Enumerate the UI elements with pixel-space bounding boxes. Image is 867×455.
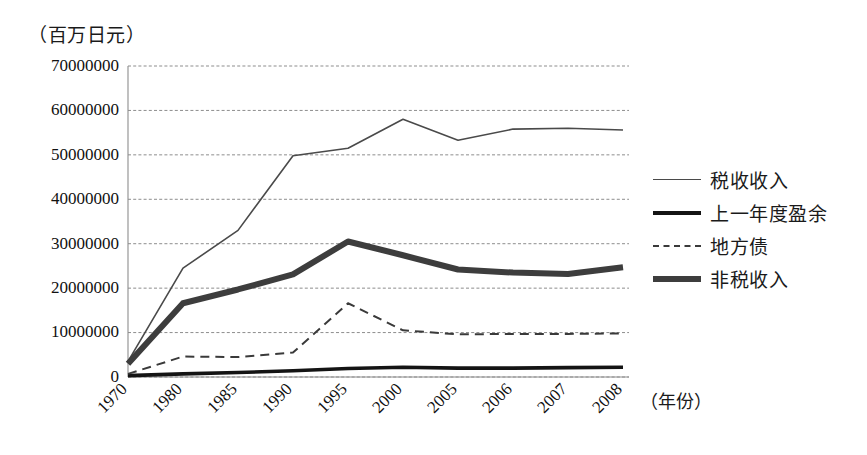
x-tick-label: 2005 — [423, 379, 460, 416]
axis-frame — [128, 66, 629, 377]
legend-line-swatch-icon — [653, 273, 701, 285]
data-series-group — [128, 119, 623, 375]
x-tick-label: 2008 — [588, 379, 625, 416]
x-axis-title: （年份） — [640, 387, 712, 413]
y-tick-label: 40000000 — [51, 189, 119, 208]
legend-line-swatch-icon — [653, 207, 701, 219]
series-line — [128, 119, 623, 361]
chart-legend: 税收收入上一年度盈余地方债非税收入 — [653, 163, 867, 295]
x-tick-label: 1970 — [93, 379, 130, 416]
x-tick-label: 2000 — [368, 379, 405, 416]
legend-item-label: 上一年度盈余 — [710, 199, 827, 226]
x-axis-tick-labels: 1970198019851990199520002005200620072008 — [93, 379, 625, 417]
legend-item-label: 地方债 — [710, 232, 769, 259]
x-tick-label: 2006 — [478, 379, 515, 416]
legend-item-1[interactable]: 税收收入 — [653, 163, 867, 196]
legend-line-swatch-icon — [653, 240, 701, 252]
legend-item-label: 非税收入 — [710, 265, 788, 292]
x-tick-label: 1990 — [258, 379, 295, 416]
legend-item-2[interactable]: 上一年度盈余 — [653, 196, 867, 229]
y-tick-label: 30000000 — [51, 234, 119, 253]
x-tick-label: 1985 — [203, 379, 240, 416]
legend-item-3[interactable]: 地方债 — [653, 229, 867, 262]
y-tick-label: 60000000 — [51, 100, 119, 119]
legend-item-4[interactable]: 非税收入 — [653, 262, 867, 295]
x-tick-label: 2007 — [533, 379, 571, 417]
series-line — [128, 367, 623, 375]
x-tick-label: 1980 — [148, 379, 185, 416]
y-tick-label: 20000000 — [51, 278, 119, 297]
chart-figure: （百万日元） 700000006000000050000000400000003… — [0, 0, 867, 455]
y-tick-label: 70000000 — [51, 56, 119, 75]
gridlines — [128, 66, 629, 377]
y-tick-label: 10000000 — [51, 322, 119, 341]
series-line — [128, 241, 623, 363]
y-tick-label: 50000000 — [51, 145, 119, 164]
y-axis-tick-labels: 7000000060000000500000004000000030000000… — [51, 56, 119, 386]
legend-line-swatch-icon — [653, 174, 701, 186]
legend-item-label: 税收收入 — [710, 166, 788, 193]
x-tick-label: 1995 — [313, 379, 350, 416]
series-line — [128, 303, 623, 374]
